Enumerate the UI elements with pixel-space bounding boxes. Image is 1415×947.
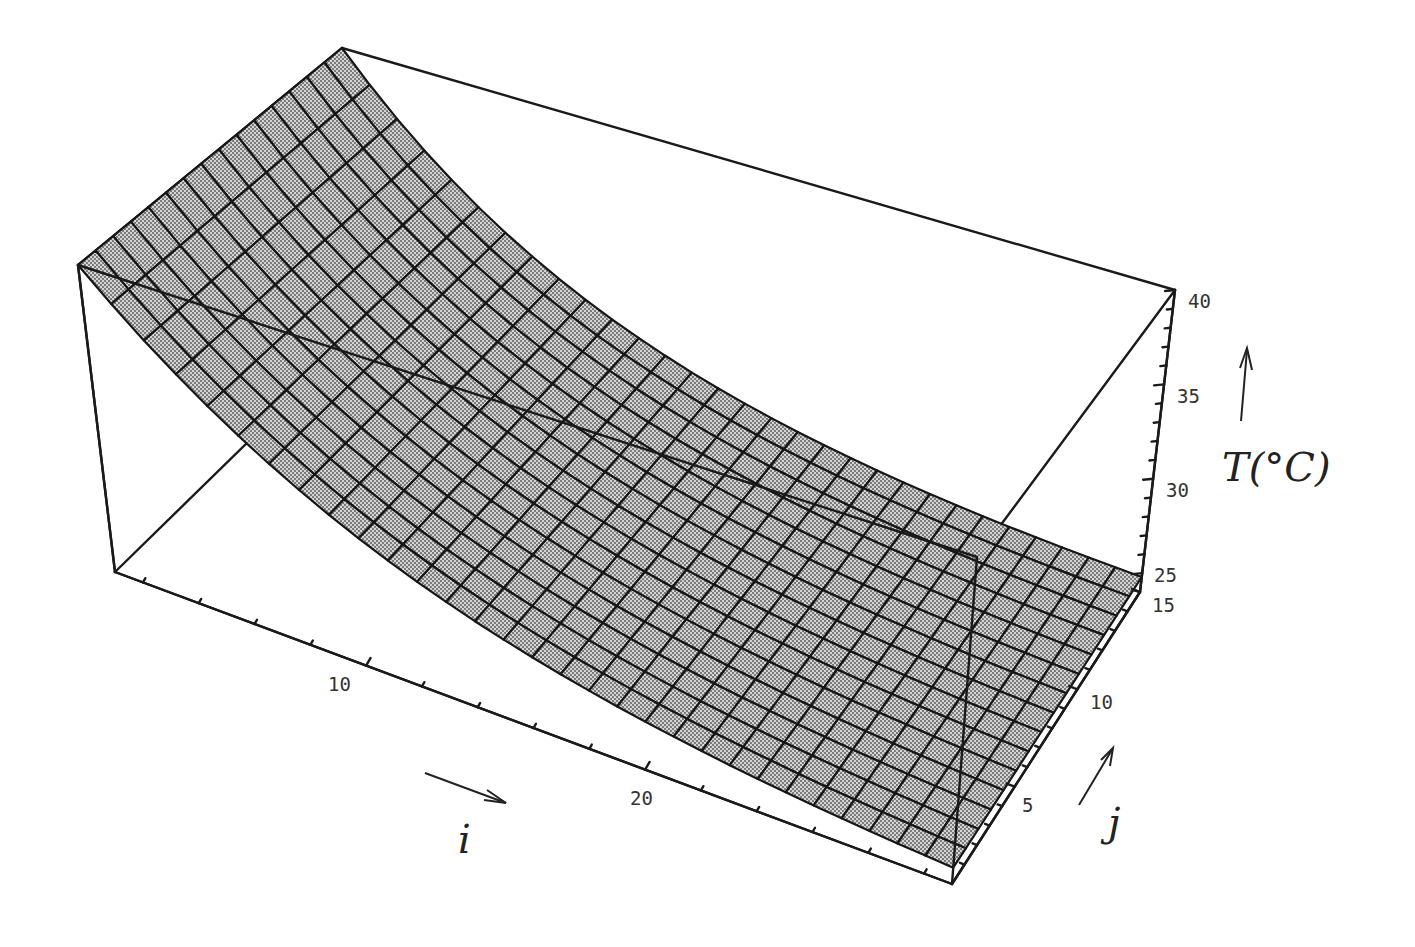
t-tick-25: 25 — [1154, 564, 1177, 586]
surface-mesh — [78, 48, 1142, 868]
j-minor-tick — [1110, 629, 1115, 631]
t-major-tick — [1154, 384, 1164, 385]
t-axis-title: T(°C) — [1222, 444, 1331, 490]
j-minor-tick — [1098, 649, 1103, 651]
i-minor-tick — [143, 578, 146, 582]
j-minor-tick — [998, 804, 1003, 806]
j-minor-tick — [1123, 610, 1128, 612]
i-axis-title: i — [458, 816, 471, 862]
j-tick-15: 15 — [1152, 594, 1175, 616]
box-edge-front-left-vertical-front — [78, 265, 115, 572]
t-minor-tick — [1167, 309, 1173, 310]
j-minor-tick — [985, 824, 990, 826]
j-tick-5: 5 — [1022, 794, 1033, 816]
i-tick-20: 20 — [630, 787, 653, 809]
i-minor-tick — [813, 828, 816, 832]
i-minor-tick — [199, 599, 202, 603]
j-axis-title: j — [1100, 799, 1120, 845]
t-minor-tick — [1141, 535, 1147, 536]
i-minor-tick — [422, 682, 425, 686]
t-minor-tick — [1165, 328, 1171, 329]
j-minor-tick — [1048, 727, 1053, 729]
j-minor-tick — [1035, 746, 1040, 748]
t-minor-tick — [1149, 460, 1155, 461]
t-tick-30: 30 — [1166, 479, 1189, 501]
t-minor-tick — [1138, 554, 1144, 555]
t-minor-tick — [1152, 441, 1158, 442]
t-minor-tick — [1156, 403, 1162, 404]
i-major-tick — [366, 658, 371, 666]
i-minor-tick — [701, 786, 704, 790]
j-tick-10: 10 — [1090, 691, 1113, 713]
i-minor-tick — [478, 703, 481, 707]
t-minor-tick — [1154, 422, 1160, 423]
t-tick-40: 40 — [1188, 290, 1211, 312]
j-axis-arrow-icon — [1079, 748, 1113, 805]
i-axis-arrow-icon — [425, 773, 506, 803]
surface-plot: 40 35 30 25 15 10 5 10 20 T(°C) i j — [0, 0, 1415, 947]
j-minor-tick — [973, 843, 978, 845]
i-minor-tick — [534, 724, 537, 728]
i-minor-tick — [757, 807, 760, 811]
i-tick-10: 10 — [328, 673, 351, 695]
i-major-tick — [645, 762, 650, 770]
i-minor-tick — [255, 620, 258, 624]
t-minor-tick — [1162, 347, 1168, 348]
j-minor-tick — [1060, 707, 1065, 709]
j-minor-tick — [1023, 765, 1027, 767]
j-minor-tick — [960, 863, 965, 865]
t-minor-tick — [1145, 498, 1151, 499]
t-major-tick — [1143, 479, 1153, 480]
i-minor-tick — [868, 849, 871, 853]
t-tick-35: 35 — [1177, 385, 1200, 407]
t-minor-tick — [1160, 366, 1166, 367]
t-axis-arrow-icon — [1240, 348, 1252, 421]
i-minor-tick — [924, 869, 927, 873]
j-major-tick — [1007, 784, 1015, 787]
t-major-tick — [1165, 290, 1175, 291]
j-minor-tick — [1085, 668, 1090, 670]
i-minor-tick — [589, 745, 592, 749]
t-minor-tick — [1143, 517, 1149, 518]
i-minor-tick — [310, 641, 313, 645]
t-major-tick — [1132, 573, 1142, 574]
